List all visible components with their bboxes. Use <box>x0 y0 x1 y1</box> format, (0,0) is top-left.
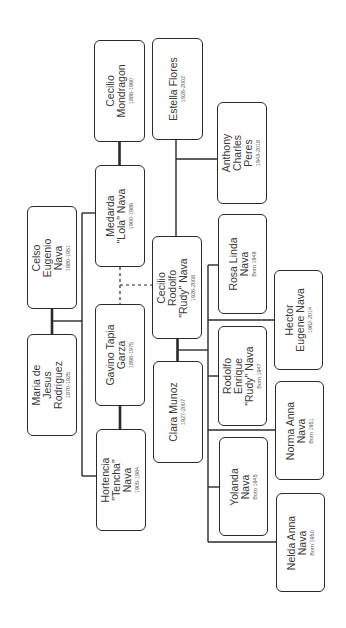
person-box-yolanda-nava: YolandaNavaBorn 1945 <box>219 437 268 536</box>
person-box-clara-munoz: Clara Munoz1927-2007 <box>153 361 203 463</box>
person-box-gavino-tapia-garza: Gavino TapiaGarza1898-1975 <box>95 304 145 406</box>
person-name-line: Rodolfo <box>222 346 233 405</box>
person-name-line: Estella Flores <box>168 57 179 121</box>
person-box-norma-anna-nava: Norma AnnaNavaBorn 1951 <box>275 381 324 480</box>
person-dates: Born 1945 <box>250 468 259 506</box>
person-box-anthony-charles-peres: AnthonyCharlesPeres1943-2018 <box>217 102 267 204</box>
person-name-line: Yolanda <box>228 468 239 506</box>
person-name-line: Eugene Nava <box>294 288 305 352</box>
person-box-hortencia-tencha-nava: Hortencia"Tencha"Nava1905-1984 <box>96 429 146 531</box>
person-name-line: Nava <box>53 238 64 277</box>
person-name-line: "Rudy" Nava <box>244 346 255 405</box>
person-text: Maria deJesusRodriguez1870-1925 <box>31 361 73 409</box>
person-text: Medarda"Lola" Nava1900-1986 <box>105 189 136 244</box>
person-box-cecilio-rodolfo-rudy-nava: CecilioRodolfo"Rudy" Nava1926-2008 <box>152 236 202 339</box>
family-tree-diagram: CecilioMondragon1886-1960Estella Flores1… <box>0 0 346 628</box>
person-name-line: Cecilio <box>104 64 115 117</box>
person-dates: 1926-2008 <box>189 258 198 317</box>
person-name-line: Nava <box>238 237 249 290</box>
person-text: Norma AnnaNavaBorn 1951 <box>284 401 315 459</box>
person-dates: 1927-2007 <box>179 382 188 442</box>
person-box-maria-de-jesus-rodriguez: Maria deJesusRodriguez1870-1925 <box>27 334 77 436</box>
person-dates: 1900-1986 <box>127 189 136 244</box>
person-text: CecilioRodolfo"Rudy" Nava1926-2008 <box>156 258 198 317</box>
person-text: CelsoEugenioNava1880-1951 <box>31 238 73 277</box>
person-name-line: Rodriguez <box>53 361 64 409</box>
person-dates: Born 1947 <box>255 346 264 405</box>
person-text: YolandaNavaBorn 1945 <box>228 468 259 506</box>
person-dates: Born 1951 <box>306 401 315 459</box>
person-name-line: Nava <box>296 515 307 569</box>
person-name-line: Enrique <box>233 346 244 405</box>
person-name-line: "Rudy" Nava <box>178 258 189 317</box>
person-name-line: Nelda Anna <box>285 515 296 569</box>
person-text: Estella Flores1926-2002 <box>168 57 188 121</box>
person-dates: 1898-1975 <box>127 324 136 385</box>
person-text: Gavino TapiaGarza1898-1975 <box>105 324 136 385</box>
person-name-line: Nava <box>239 468 250 506</box>
person-name-line: Nava <box>295 401 306 459</box>
person-text: Rosa LindaNavaBorn 1948 <box>227 237 258 290</box>
person-name-line: Peres <box>243 134 254 173</box>
person-name-line: Nava <box>122 458 133 503</box>
person-name-line: Mondragon <box>115 64 126 117</box>
person-text: AnthonyCharlesPeres1943-2018 <box>221 134 263 173</box>
person-box-cecilio-mondragon: CecilioMondragon1886-1960 <box>94 40 145 142</box>
person-dates: 1886-1960 <box>126 64 135 117</box>
person-name-line: "Lola" Nava <box>116 189 127 244</box>
person-box-celso-eugenio-nava: CelsoEugenioNava1880-1951 <box>27 206 77 309</box>
person-text: Nelda AnnaNavaBorn 1950 <box>285 515 316 569</box>
person-box-nelda-anna-nava: Nelda AnnaNavaBorn 1950 <box>276 493 325 592</box>
person-dates: 1905-1984 <box>133 458 142 503</box>
person-dates: 1870-1925 <box>64 361 73 409</box>
person-box-estella-flores: Estella Flores1926-2002 <box>152 38 203 140</box>
person-dates: 1880-1951 <box>64 238 73 277</box>
person-name-line: Norma Anna <box>284 401 295 459</box>
person-box-rosa-linda-nava: Rosa LindaNavaBorn 1948 <box>218 214 267 314</box>
person-dates: 1943-2018 <box>254 134 263 173</box>
person-name-line: Hector <box>283 288 294 352</box>
person-box-medarda-lola-nava: Medarda"Lola" Nava1900-1986 <box>95 165 145 267</box>
person-name-line: Clara Munoz <box>168 382 179 442</box>
person-dates: Born 1948 <box>249 237 258 290</box>
person-name-line: Garza <box>116 324 127 385</box>
person-box-rodolfo-enrique-rudy-nava: RodolfoEnrique"Rudy" NavaBorn 1947 <box>218 326 267 426</box>
person-text: CecilioMondragon1886-1960 <box>104 64 135 117</box>
person-text: Clara Munoz1927-2007 <box>168 382 188 442</box>
person-dates: Born 1950 <box>307 515 316 569</box>
person-name-line: Rosa Linda <box>227 237 238 290</box>
person-dates: 1962-2014 <box>305 288 314 352</box>
person-dates: 1926-2002 <box>179 57 188 121</box>
person-text: Hortencia"Tencha"Nava1905-1984 <box>100 458 142 503</box>
person-text: RodolfoEnrique"Rudy" NavaBorn 1947 <box>222 346 264 405</box>
person-text: HectorEugene Nava1962-2014 <box>283 288 314 352</box>
person-box-hector-eugene-nava: HectorEugene Nava1962-2014 <box>274 270 323 370</box>
